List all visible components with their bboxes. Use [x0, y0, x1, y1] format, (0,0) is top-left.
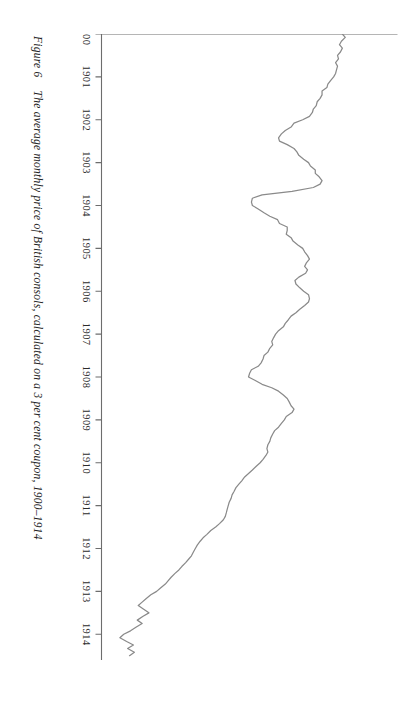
figure-page: 1900190119021903190419051906190719081909…: [0, 0, 415, 716]
x-tick-label-1908: 1908: [80, 366, 91, 389]
figure-area: 1900190119021903190419051906190719081909…: [0, 0, 415, 716]
x-tick-label-1906: 1906: [80, 280, 91, 303]
x-tick-label-1907: 1907: [80, 323, 91, 346]
x-tick-label-1912: 1912: [80, 537, 91, 560]
x-tick-label-1904: 1904: [80, 194, 91, 217]
x-tick-label-1905: 1905: [80, 237, 91, 260]
data-series: [119, 34, 344, 656]
x-tick-label-1902: 1902: [80, 108, 91, 131]
x-tick-label-1903: 1903: [80, 151, 91, 174]
consols-line-chart: 1900190119021903190419051906190719081909…: [71, 34, 401, 664]
figure-number: Figure 6: [31, 36, 43, 78]
x-tick-label-1914: 1914: [80, 623, 91, 646]
chart-axes: [101, 34, 397, 660]
plot-area: 1900190119021903190419051906190719081909…: [71, 34, 401, 664]
x-tick-label-1909: 1909: [80, 409, 91, 432]
x-tick-label-1910: 1910: [80, 451, 91, 474]
series-line-0: [119, 34, 344, 656]
x-tick-label-1911: 1911: [80, 495, 91, 517]
figure-caption-text: The average monthly price of British con…: [31, 91, 43, 540]
x-tick-label-1913: 1913: [80, 580, 91, 603]
x-tick-label-1900: 1900: [80, 34, 91, 45]
x-axis-ticks: 1900190119021903190419051906190719081909…: [80, 34, 101, 646]
x-tick-label-1901: 1901: [80, 66, 91, 89]
figure-caption: Figure 6The average monthly price of Bri…: [31, 36, 43, 686]
